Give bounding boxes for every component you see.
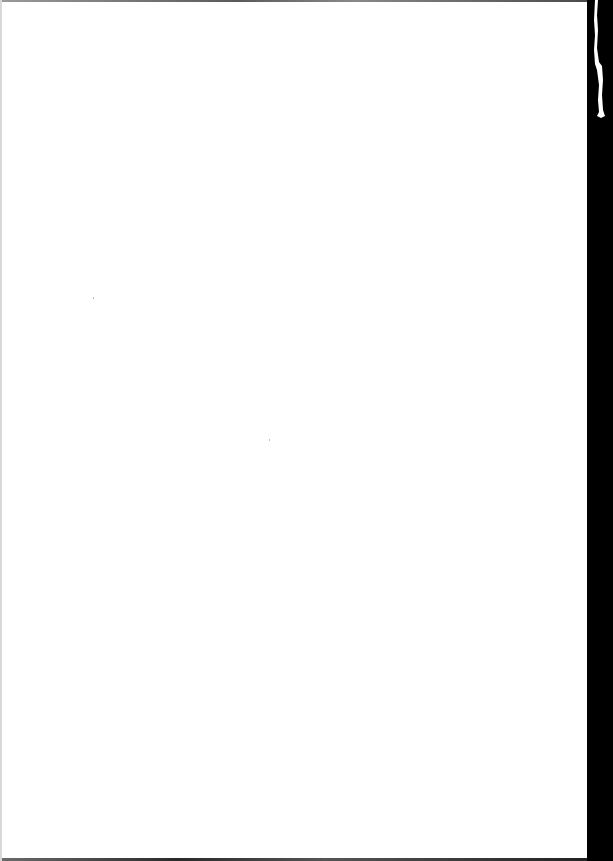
scanner-background-strip (587, 0, 613, 861)
dust-speck (93, 297, 94, 299)
dust-speck (269, 439, 270, 441)
blank-paper-page (0, 0, 587, 861)
torn-paper-edge (593, 0, 605, 120)
scanned-page-frame (0, 0, 613, 861)
top-page-edge (2, 0, 589, 2)
